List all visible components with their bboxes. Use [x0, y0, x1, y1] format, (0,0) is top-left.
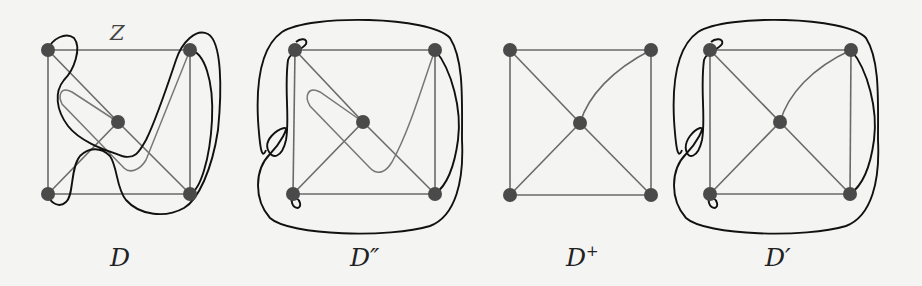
black-curve-right — [190, 50, 212, 194]
edge-right — [850, 50, 851, 194]
edge-center-br — [580, 123, 651, 195]
vertex-bottom-right — [644, 188, 658, 202]
black-curve-right — [435, 50, 459, 194]
edge-center-tr — [780, 50, 851, 122]
vertex-top-right — [428, 43, 442, 57]
vertex-center — [356, 115, 370, 129]
edge-label-z: Z — [109, 21, 125, 45]
edge-center-br — [363, 122, 435, 194]
label-mark: ″ — [370, 243, 380, 272]
vertex-top-left — [288, 43, 302, 57]
edge-tl-center — [48, 50, 118, 122]
vertex-bottom-left — [703, 187, 717, 201]
vertex-top-left — [503, 43, 517, 57]
edge-tl-center — [510, 50, 580, 123]
vertex-bottom-left — [503, 188, 517, 202]
vertex-top-right — [844, 43, 858, 57]
edge-left — [293, 50, 295, 194]
vertex-bottom-left — [286, 187, 300, 201]
vertex-top-right — [644, 43, 658, 57]
panel-d-double-prime: D″ — [258, 20, 463, 272]
panel-d-prime: D′ — [674, 20, 879, 272]
vertex-bottom-left — [41, 187, 55, 201]
panel-d-plus: D+ — [503, 43, 658, 272]
vertex-top-left — [703, 43, 717, 57]
vertex-bottom-right — [843, 187, 857, 201]
panel-label-d-plus: D+ — [565, 242, 599, 272]
panel-d: Z D — [41, 21, 220, 272]
edge-tl-center — [295, 50, 363, 122]
label-base: D — [349, 243, 370, 272]
edge-bl-center — [510, 123, 580, 195]
label-mark: + — [586, 242, 599, 260]
edge-bl-center — [293, 122, 363, 194]
label-base: D — [764, 243, 785, 272]
gray-loop-curve — [60, 50, 190, 171]
vertex-center — [773, 115, 787, 129]
edge-center-tr — [580, 50, 651, 123]
black-curve-right — [850, 50, 875, 194]
graph-drawings-figure: Z D D″ — [0, 0, 922, 286]
vertex-center — [111, 115, 125, 129]
label-base: D — [565, 243, 586, 272]
edge-tl-center — [710, 50, 780, 122]
label-mark: ′ — [785, 243, 791, 272]
panel-label-d-prime: D′ — [764, 243, 791, 272]
black-curve-left — [48, 33, 220, 215]
gray-loop-curve — [307, 50, 435, 172]
edge-center-br — [118, 122, 190, 194]
edge-center-br — [780, 122, 850, 194]
vertex-top-left — [41, 43, 55, 57]
edge-bl-center — [48, 122, 118, 194]
panel-label-d: D — [109, 243, 130, 272]
vertex-top-right — [183, 43, 197, 57]
vertex-bottom-right — [428, 187, 442, 201]
vertex-bottom-right — [183, 187, 197, 201]
edge-bl-center — [710, 122, 780, 194]
vertex-center — [573, 116, 587, 130]
panel-label-d-double-prime: D″ — [349, 243, 380, 272]
